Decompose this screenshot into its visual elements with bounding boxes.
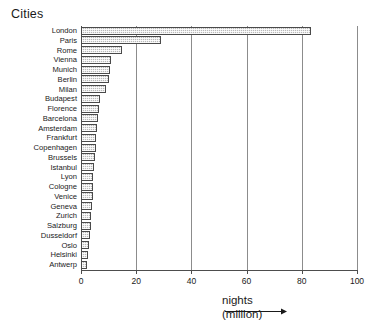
bar-row: Brussels xyxy=(81,153,357,163)
bar-row: Antwerp xyxy=(81,260,357,270)
category-label-rome: Rome xyxy=(57,46,77,56)
category-label-munich: Munich xyxy=(53,65,77,75)
bar-munich xyxy=(81,66,110,74)
category-label-antwerp: Antwerp xyxy=(49,260,77,270)
bar-paris xyxy=(81,36,161,44)
bar-oslo xyxy=(81,241,89,249)
category-label-budapest: Budapest xyxy=(45,94,77,104)
bar-row: Oslo xyxy=(81,241,357,251)
cities-nights-bar-chart: Cities LondonParisRomeViennaMunichBerlin… xyxy=(0,0,378,334)
bar-row: Barcelona xyxy=(81,114,357,124)
x-tick-label-80: 80 xyxy=(297,276,306,286)
bar-lyon xyxy=(81,173,93,181)
category-label-florence: Florence xyxy=(47,104,77,114)
bar-row: Paris xyxy=(81,36,357,46)
bar-london xyxy=(81,27,311,35)
bar-row: Budapest xyxy=(81,94,357,104)
bar-milan xyxy=(81,85,106,93)
category-label-dusseldorf: Dusseldorf xyxy=(41,231,77,241)
bar-cologne xyxy=(81,183,93,191)
category-label-zurich: Zurich xyxy=(56,211,77,221)
category-label-cologne: Cologne xyxy=(49,182,77,192)
bar-florence xyxy=(81,105,99,113)
category-label-oslo: Oslo xyxy=(61,241,77,251)
bar-row: London xyxy=(81,26,357,36)
bar-row: Rome xyxy=(81,46,357,56)
category-label-venice: Venice xyxy=(54,192,77,202)
x-tick-label-60: 60 xyxy=(242,276,251,286)
bar-row: Berlin xyxy=(81,75,357,85)
bar-row: Zurich xyxy=(81,211,357,221)
plot-area: LondonParisRomeViennaMunichBerlinMilanBu… xyxy=(81,26,357,270)
x-axis-label-line2: (million) xyxy=(222,308,262,322)
bar-budapest xyxy=(81,95,100,103)
bar-brussels xyxy=(81,153,95,161)
x-tick-0 xyxy=(81,270,82,274)
x-tick-label-40: 40 xyxy=(187,276,196,286)
x-tick-label-0: 0 xyxy=(79,276,84,286)
category-label-helsinki: Helsinki xyxy=(50,250,77,260)
bar-row: Copenhagen xyxy=(81,143,357,153)
category-label-copenhagen: Copenhagen xyxy=(34,143,78,153)
bar-row: Amsterdam xyxy=(81,124,357,134)
bar-row: Munich xyxy=(81,65,357,75)
bar-salzburg xyxy=(81,222,91,230)
category-label-frankfurt: Frankfurt xyxy=(47,133,77,143)
bar-venice xyxy=(81,192,93,200)
bar-berlin xyxy=(81,75,109,83)
bar-geneva xyxy=(81,202,92,210)
bar-barcelona xyxy=(81,114,98,122)
bar-row: Lyon xyxy=(81,172,357,182)
bar-copenhagen xyxy=(81,144,96,152)
x-axis-line xyxy=(81,270,358,271)
bar-row: Helsinki xyxy=(81,250,357,260)
bar-row: Vienna xyxy=(81,55,357,65)
bar-row: Venice xyxy=(81,192,357,202)
x-tick-60 xyxy=(247,270,248,274)
gridline-100 xyxy=(357,26,358,270)
bar-amsterdam xyxy=(81,124,97,132)
bar-row: Florence xyxy=(81,104,357,114)
category-label-amsterdam: Amsterdam xyxy=(38,124,77,134)
category-label-vienna: Vienna xyxy=(53,55,77,65)
bar-zurich xyxy=(81,212,91,220)
bar-frankfurt xyxy=(81,134,96,142)
bar-antwerp xyxy=(81,261,87,269)
bar-row: Salzburg xyxy=(81,221,357,231)
category-label-geneva: Geneva xyxy=(50,202,77,212)
category-label-london: London xyxy=(52,26,77,36)
x-tick-label-20: 20 xyxy=(131,276,140,286)
bar-row: Milan xyxy=(81,85,357,95)
category-label-paris: Paris xyxy=(60,36,77,46)
bar-row: Istanbul xyxy=(81,163,357,173)
bar-dusseldorf xyxy=(81,231,90,239)
x-tick-40 xyxy=(191,270,192,274)
bar-row: Cologne xyxy=(81,182,357,192)
category-label-salzburg: Salzburg xyxy=(47,221,77,231)
bar-rome xyxy=(81,46,122,54)
x-axis-label: nights (million) xyxy=(222,294,262,321)
x-tick-20 xyxy=(136,270,137,274)
category-label-milan: Milan xyxy=(59,85,77,95)
category-label-berlin: Berlin xyxy=(58,75,77,85)
bar-row: Geneva xyxy=(81,202,357,212)
x-tick-label-100: 100 xyxy=(350,276,364,286)
x-axis-label-line1: nights xyxy=(222,294,253,306)
x-tick-80 xyxy=(302,270,303,274)
category-label-istanbul: Istanbul xyxy=(50,163,77,173)
category-label-barcelona: Barcelona xyxy=(43,114,77,124)
y-axis-title: Cities xyxy=(11,7,43,21)
x-tick-100 xyxy=(357,270,358,274)
bar-vienna xyxy=(81,56,111,64)
bar-istanbul xyxy=(81,163,94,171)
bar-row: Dusseldorf xyxy=(81,231,357,241)
bar-helsinki xyxy=(81,251,88,259)
category-label-lyon: Lyon xyxy=(61,172,77,182)
bar-row: Frankfurt xyxy=(81,133,357,143)
category-label-brussels: Brussels xyxy=(48,153,77,163)
